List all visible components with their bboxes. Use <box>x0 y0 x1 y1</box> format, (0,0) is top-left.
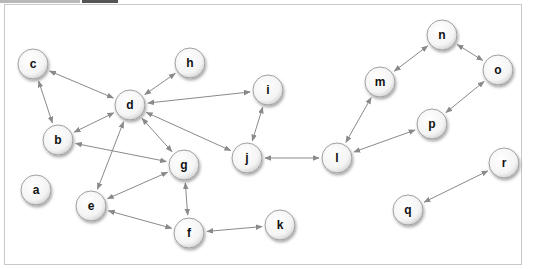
node-label: h <box>186 56 193 70</box>
node-i[interactable]: i <box>253 75 283 105</box>
node-h[interactable]: h <box>175 48 205 78</box>
node-f[interactable]: f <box>174 218 204 248</box>
node-b[interactable]: b <box>43 125 73 155</box>
edge-o-p <box>446 81 484 112</box>
node-j[interactable]: j <box>232 143 262 173</box>
node-label: m <box>375 75 386 89</box>
node-k[interactable]: k <box>265 210 295 240</box>
node-label: o <box>494 63 501 77</box>
node-label: g <box>180 158 187 172</box>
node-label: n <box>438 28 445 42</box>
node-g[interactable]: g <box>169 150 199 180</box>
graph-canvas: abcdefghijklmnopqr <box>0 0 534 269</box>
edge-d-b <box>74 113 114 132</box>
node-label: q <box>404 203 411 217</box>
edge-g-e <box>107 172 167 198</box>
node-m[interactable]: m <box>365 67 395 97</box>
node-a[interactable]: a <box>21 175 51 205</box>
edge-l-m <box>346 98 371 143</box>
node-p[interactable]: p <box>417 109 447 139</box>
node-label: r <box>502 156 507 170</box>
node-label: d <box>126 98 133 112</box>
node-label: i <box>266 83 269 97</box>
node-d[interactable]: d <box>115 90 145 120</box>
edge-f-k <box>207 227 262 232</box>
edge-c-d <box>50 71 114 98</box>
node-label: c <box>30 57 37 71</box>
edge-d-g <box>142 118 172 151</box>
nodes-layer: abcdefghijklmnopqr <box>18 20 519 248</box>
node-c[interactable]: c <box>18 49 48 79</box>
node-label: a <box>33 183 40 197</box>
edge-d-j <box>146 112 230 150</box>
node-label: l <box>335 151 338 165</box>
edge-d-e <box>97 122 123 189</box>
node-q[interactable]: q <box>393 195 423 225</box>
node-label: j <box>244 151 248 165</box>
node-label: k <box>277 218 284 232</box>
node-n[interactable]: n <box>427 20 457 50</box>
node-l[interactable]: l <box>322 143 352 173</box>
node-o[interactable]: o <box>483 55 513 85</box>
edge-e-f <box>108 211 171 228</box>
edge-c-b <box>39 81 53 123</box>
edge-g-f <box>185 183 187 215</box>
node-e[interactable]: e <box>76 191 106 221</box>
node-label: b <box>54 133 61 147</box>
edge-i-j <box>252 107 262 141</box>
edge-b-g <box>76 144 167 162</box>
edge-m-n <box>394 46 427 71</box>
node-label: e <box>88 199 95 213</box>
edge-n-o <box>457 45 482 61</box>
node-r[interactable]: r <box>489 148 519 178</box>
node-label: p <box>428 117 435 131</box>
edge-d-h <box>145 73 176 94</box>
edge-q-r <box>424 171 488 202</box>
edge-l-p <box>354 130 415 152</box>
edge-d-i <box>148 92 250 103</box>
